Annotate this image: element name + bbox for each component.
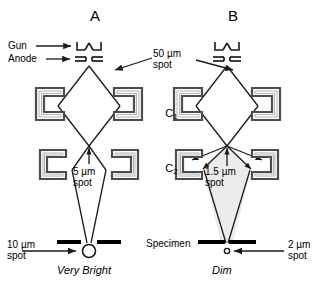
panel-a-specimen-spot-line2: spot [7,250,26,261]
panel-b-c2-spot-line1: 1.5 µm [205,166,236,177]
lens-label-c2-sub: 2 [173,167,177,176]
anode-label: Anode [8,53,37,64]
lens-c2-left-a [40,150,66,179]
figure-canvas: A B Gun Anode 50 µm spot C1 C2 5 µm spot… [0,0,323,285]
panel-letter-a: A [90,10,100,21]
lens-label-c2-text: C [165,162,173,174]
panel-b-group [174,42,284,254]
lens-label-c1-text: C [165,107,173,119]
specimen-bar-a [57,240,121,244]
lens-label-c1-sub: 1 [173,112,177,121]
lens-c2-right-a [112,150,138,179]
gun-label: Gun [8,40,27,51]
lens-label-c2: C2 [153,152,178,188]
panel-a-specimen-spot-line1: 10 µm [7,239,35,250]
lens-c2-right-b [252,150,278,179]
crossover-spot-label-line1: 50 µm [153,48,181,59]
panel-a-c2-spot-line1: 5 µm [73,166,95,177]
crossover-spot-label-line2: spot [153,59,172,70]
panel-a-brightness-label: Very Bright [57,265,111,276]
specimen-label: Specimen [146,238,190,249]
spot50-leader-a [115,58,152,70]
lens-c2-left-b [176,150,202,179]
panel-b-c2-spot-line2: spot [205,177,224,188]
panel-b-specimen-spot-line1: 2 µm [288,239,310,250]
beam-path-a-upper [58,66,120,106]
panel-letter-b: B [228,10,238,21]
panel-a-c2-spot-line2: spot [73,177,92,188]
panel-b-specimen-spot-line2: spot [288,250,307,261]
anode-symbol-a [75,57,103,61]
gun-symbol-b [215,42,239,50]
beam-path-b-upper [196,66,258,106]
gun-symbol-a [77,42,101,50]
spot-circle-b [224,248,229,253]
panel-b-brightness-label: Dim [212,265,232,276]
spot-circle-a [83,245,96,258]
beam-path-a-c1 [58,106,120,146]
beam-path-b-c1 [196,106,258,146]
lens-label-c1: C1 [153,97,178,133]
anode-symbol-b [213,57,241,61]
panel-a-group [22,42,152,258]
